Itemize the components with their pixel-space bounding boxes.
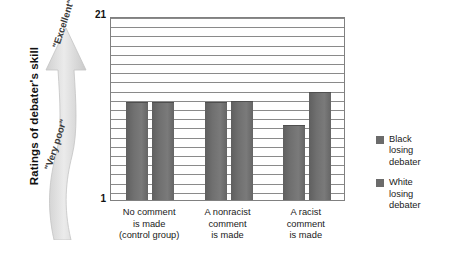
- legend-label-line: losing: [389, 189, 421, 200]
- bar: [126, 102, 148, 200]
- legend-item[interactable]: Blacklosingdebater: [376, 134, 452, 168]
- category-label-line: A nonracist: [188, 207, 266, 219]
- category-label-line: is made: [110, 219, 188, 231]
- legend-label-line: losing: [389, 145, 421, 156]
- bar: [152, 102, 174, 200]
- x-axis-category-label: No commentis made(control group): [110, 207, 188, 257]
- category-label-line: is made: [267, 230, 345, 242]
- category-label-line: No comment: [110, 207, 188, 219]
- legend-label-line: debater: [389, 200, 421, 211]
- legend-label-line: Black: [389, 134, 421, 145]
- legend-label-line: White: [389, 177, 421, 188]
- category-label-line: (control group): [110, 230, 188, 242]
- y-axis-max-label: 21: [84, 9, 106, 20]
- plot-wrapper: [110, 17, 345, 201]
- legend-swatch-icon: [376, 136, 384, 144]
- bars-layer: [111, 18, 344, 200]
- bar: [231, 101, 253, 200]
- x-axis-category-label: A nonracistcommentis made: [188, 207, 266, 257]
- category-label-line: comment: [267, 219, 345, 231]
- legend-label-line: debater: [389, 157, 421, 168]
- x-axis-category-label: A racistcommentis made: [267, 207, 345, 257]
- scale-arrow: "Excellent" "Very poor": [30, 8, 96, 240]
- bar: [205, 102, 227, 200]
- legend-label: Blacklosingdebater: [389, 134, 421, 168]
- legend-swatch-icon: [376, 179, 384, 187]
- x-axis-category-labels: No commentis made(control group)A nonrac…: [110, 207, 345, 257]
- bar: [309, 92, 331, 200]
- y-axis-min-label: 1: [84, 193, 106, 204]
- category-label-line: A racist: [267, 207, 345, 219]
- category-label-line: comment: [188, 219, 266, 231]
- bar-chart-figure: Ratings of debater's skill "Excellent" "…: [0, 0, 454, 264]
- legend-label: Whitelosingdebater: [389, 177, 421, 211]
- legend-item[interactable]: Whitelosingdebater: [376, 177, 452, 211]
- category-label-line: is made: [188, 230, 266, 242]
- plot-area: [110, 17, 345, 201]
- bar: [283, 125, 305, 200]
- legend: BlacklosingdebaterWhitelosingdebater: [376, 134, 452, 220]
